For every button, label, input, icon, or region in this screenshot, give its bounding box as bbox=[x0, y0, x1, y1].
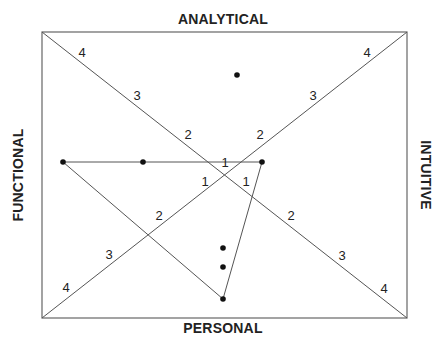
data-point bbox=[220, 296, 226, 302]
data-point bbox=[220, 264, 226, 270]
tick-bltr-3-upper: 3 bbox=[309, 88, 316, 103]
diagram-svg bbox=[0, 0, 446, 348]
tick-bltr-2-lower: 2 bbox=[155, 208, 162, 223]
tick-bltr-3-lower: 3 bbox=[105, 247, 112, 262]
label-personal: PERSONAL bbox=[0, 320, 446, 336]
data-point bbox=[259, 159, 265, 165]
tick-tlbr-3-lower: 3 bbox=[338, 248, 345, 263]
tick-tlbr-1-upper: 1 bbox=[221, 155, 228, 170]
data-point bbox=[234, 72, 240, 78]
data-point bbox=[220, 245, 226, 251]
label-analytical: ANALYTICAL bbox=[0, 11, 446, 27]
data-point bbox=[140, 159, 146, 165]
tick-tlbr-1-lower: 1 bbox=[242, 174, 249, 189]
tick-bltr-2-upper: 2 bbox=[256, 127, 263, 142]
tick-tlbr-4-upper: 4 bbox=[78, 45, 85, 60]
label-intuitive: INTUITIVE bbox=[418, 140, 434, 209]
tick-tlbr-2-upper: 2 bbox=[184, 127, 191, 142]
tick-tlbr-3-upper: 3 bbox=[133, 88, 140, 103]
tick-bltr-4-lower: 4 bbox=[62, 280, 69, 295]
data-point bbox=[60, 159, 66, 165]
label-functional: FUNCTIONAL bbox=[10, 129, 26, 222]
tick-tlbr-2-lower: 2 bbox=[287, 208, 294, 223]
tick-bltr-4-upper: 4 bbox=[363, 45, 370, 60]
tick-tlbr-4-lower: 4 bbox=[380, 281, 387, 296]
tick-bltr-1-lower: 1 bbox=[201, 174, 208, 189]
diagram-canvas: ANALYTICAL PERSONAL FUNCTIONAL INTUITIVE… bbox=[0, 0, 446, 348]
